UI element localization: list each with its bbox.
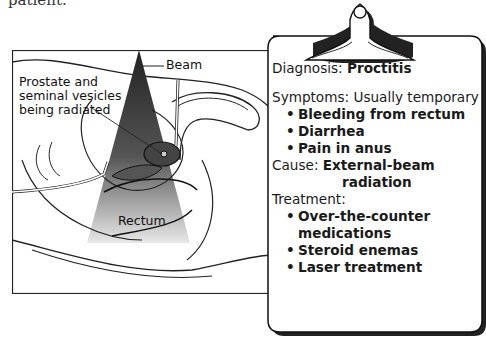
- symptom-item: Pain in anus: [272, 140, 482, 157]
- symptoms-line: Symptoms: Usually temporary: [272, 89, 482, 106]
- treatment-item-continued: medications: [272, 225, 482, 242]
- diagnosis-label: Diagnosis:: [272, 60, 343, 76]
- symptom-item: Diarrhea: [272, 123, 482, 140]
- treatment-item: Steroid enemas: [272, 242, 482, 259]
- clipboard-content: Diagnosis: Proctitis Symptoms: Usually t…: [272, 60, 482, 276]
- treatment-item: Over-the-counter: [272, 208, 482, 225]
- treatment-label: Treatment:: [272, 191, 482, 208]
- cause-label: Cause:: [272, 157, 318, 173]
- diagnosis-line: Diagnosis: Proctitis: [272, 60, 482, 77]
- rectum-label: Rectum: [118, 214, 166, 228]
- symptoms-value: Usually temporary: [353, 89, 478, 105]
- diagnosis-value: Proctitis: [347, 60, 411, 76]
- prostate-label: Prostate and seminal vesicles being radi…: [19, 75, 122, 117]
- treatment-item: Laser treatment: [272, 259, 482, 276]
- partial-caption-text: patient.: [8, 0, 67, 9]
- symptoms-label: Symptoms:: [272, 89, 349, 105]
- symptom-item: Bleeding from rectum: [272, 106, 482, 123]
- cause-value-continued: radiation: [272, 174, 482, 191]
- cause-value: External-beam: [323, 157, 435, 173]
- beam-label: Beam: [166, 58, 202, 72]
- prostate-label-line-1: Prostate and: [19, 75, 122, 89]
- prostate-label-line-2: seminal vesicles: [19, 89, 122, 103]
- cause-line: Cause: External-beam: [272, 157, 482, 174]
- prostate-label-line-3: being radiated: [19, 103, 122, 117]
